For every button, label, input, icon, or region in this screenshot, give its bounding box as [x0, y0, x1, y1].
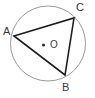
geometry-canvas: O A C B [0, 0, 95, 98]
vertex-label-a: A [3, 25, 11, 37]
center-label-o: O [50, 39, 58, 50]
geometry-figure: O A C B [0, 0, 95, 98]
vertex-label-c: C [76, 1, 84, 13]
vertex-label-b: B [62, 81, 69, 93]
circle-center-dot [42, 43, 45, 46]
